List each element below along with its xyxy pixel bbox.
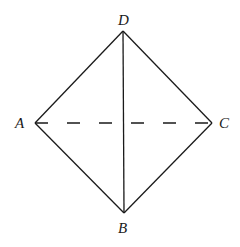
edge-CB — [124, 123, 212, 213]
edge-DB — [123, 31, 124, 213]
edge-DC — [123, 31, 212, 123]
vertex-label-D: D — [117, 12, 129, 28]
edge-AB — [35, 123, 124, 213]
vertex-label-C: C — [219, 115, 230, 131]
vertex-label-A: A — [14, 115, 25, 131]
geometry-diagram: D A C B — [0, 0, 240, 247]
edge-DA — [35, 31, 123, 123]
vertex-label-B: B — [118, 220, 127, 236]
